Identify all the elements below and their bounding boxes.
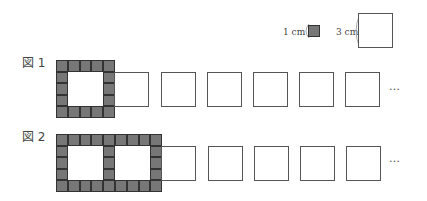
square-3cm (114, 72, 149, 107)
square-3cm (161, 72, 196, 107)
square-3cm (300, 146, 335, 181)
unit-square (56, 60, 68, 72)
figure-2-ellipsis: … (389, 152, 401, 165)
unit-square (91, 60, 103, 72)
square-3cm (299, 72, 334, 107)
unit-square (68, 180, 80, 192)
unit-square (103, 157, 115, 169)
unit-square (56, 169, 68, 181)
unit-square (68, 134, 80, 146)
unit-square (139, 180, 151, 192)
unit-square (80, 106, 92, 118)
square-3cm (207, 72, 242, 107)
unit-square (139, 134, 151, 146)
unit-square (115, 134, 127, 146)
square-3cm (253, 72, 288, 107)
unit-square (56, 157, 68, 169)
figure-diagram: 1 cm 3 cm 図 1 … 図 2 … (0, 0, 427, 201)
unit-square (127, 180, 139, 192)
unit-square (103, 134, 115, 146)
unit-square (103, 180, 115, 192)
unit-square (80, 180, 92, 192)
unit-square (103, 106, 115, 118)
unit-square (115, 180, 127, 192)
unit-square (150, 134, 162, 146)
unit-square (56, 95, 68, 107)
unit-square (91, 134, 103, 146)
figure-2-label: 図 2 (22, 127, 45, 144)
figure-1-label: 図 1 (22, 53, 45, 70)
unit-square (56, 72, 68, 84)
unit-square (68, 106, 80, 118)
unit-square (56, 180, 68, 192)
square-3cm (208, 146, 243, 181)
square-3cm (346, 146, 381, 181)
legend-small-square (308, 25, 320, 37)
unit-square (80, 134, 92, 146)
unit-square (150, 180, 162, 192)
legend-large-square (358, 13, 393, 48)
unit-square (56, 83, 68, 95)
unit-square (103, 169, 115, 181)
unit-square (56, 146, 68, 158)
unit-square (80, 60, 92, 72)
unit-square (56, 106, 68, 118)
unit-square (127, 134, 139, 146)
unit-square (91, 180, 103, 192)
figure-1-ellipsis: … (389, 80, 401, 93)
square-3cm (345, 72, 380, 107)
unit-square (91, 106, 103, 118)
unit-square (56, 134, 68, 146)
square-3cm (254, 146, 289, 181)
unit-square (103, 60, 115, 72)
unit-square (103, 146, 115, 158)
unit-square (68, 60, 80, 72)
square-3cm (161, 146, 196, 181)
